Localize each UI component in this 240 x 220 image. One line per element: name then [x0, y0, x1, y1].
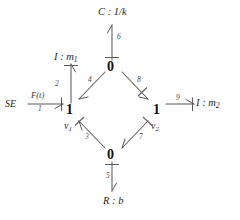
velocity-label-v2: v2 — [151, 121, 159, 133]
effort-source-label: SE — [5, 99, 16, 109]
bond-2-group — [64, 64, 78, 103]
bond-4-line — [79, 72, 105, 99]
inertia-1-value: m — [66, 51, 74, 62]
bond-number-3: 3 — [85, 133, 89, 141]
bond-number-5: 5 — [106, 172, 110, 180]
element-label-capacitor: C : 1/k — [98, 7, 127, 18]
bond-6-half-arrow — [108, 25, 113, 33]
resistor-separator: : — [109, 195, 118, 206]
inertia-2-value: m — [208, 97, 216, 108]
junction-one-left: 1 — [66, 103, 73, 117]
bond-7-line — [122, 121, 148, 148]
capacitor-value: 1/k — [114, 6, 127, 17]
v2-subscript: 2 — [155, 125, 159, 133]
bond-number-1: 1 — [38, 105, 42, 113]
element-label-inertia-1: I : m1 — [54, 52, 78, 63]
capacitor-separator: : — [105, 6, 114, 17]
bond-graph-diagram: C : 1/k I : m1 I : m2 R : b SE F(t) 0 1 … — [0, 0, 240, 220]
element-label-inertia-2: I : m2 — [196, 98, 220, 109]
bond-number-7: 7 — [139, 133, 143, 141]
inertia-1-subscript: 1 — [74, 55, 78, 64]
bond-4-group — [79, 72, 105, 99]
bond-number-2: 2 — [55, 80, 59, 88]
bond-8-line — [122, 72, 148, 99]
bond-8-causal-stroke — [138, 88, 147, 97]
inertia-2-separator: : — [200, 97, 209, 108]
junction-one-right: 1 — [153, 103, 160, 117]
junction-zero-bottom: 0 — [107, 148, 114, 162]
bond-7-group — [122, 117, 152, 148]
bond-number-8: 8 — [137, 76, 141, 84]
element-label-resistor: R : b — [103, 196, 123, 207]
v1-subscript: 1 — [68, 125, 72, 133]
bond-number-4: 4 — [88, 76, 92, 84]
capacitor-base: C — [98, 6, 105, 17]
bond-3-group — [75, 117, 105, 148]
inertia-2-subscript: 2 — [216, 101, 220, 110]
velocity-label-v1: v1 — [64, 121, 72, 133]
effort-function-label: F(t) — [31, 91, 44, 100]
bond-9-group — [166, 98, 194, 112]
junction-zero-top: 0 — [107, 60, 114, 74]
bond-3-line — [79, 121, 105, 148]
resistor-value: b — [118, 195, 123, 206]
bond-5-half-arrow — [112, 183, 117, 191]
bond-6-group — [105, 25, 119, 60]
inertia-1-separator: : — [58, 51, 67, 62]
bond-number-9: 9 — [176, 94, 180, 102]
bond-number-6: 6 — [117, 33, 121, 41]
bond-8-group — [122, 72, 148, 99]
